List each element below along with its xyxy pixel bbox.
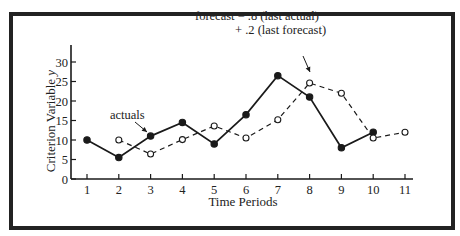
actuals-point bbox=[147, 133, 153, 139]
forecast-point bbox=[370, 135, 376, 141]
forecast-formula-line2: + .2 (last forecast) bbox=[235, 23, 326, 37]
forecast-point bbox=[243, 135, 249, 141]
actuals-point bbox=[179, 119, 185, 125]
actuals-point bbox=[338, 145, 344, 151]
y-axis-title-text: Criterion Variable bbox=[43, 76, 58, 173]
forecast-point bbox=[275, 117, 281, 123]
forecast-line bbox=[119, 83, 405, 154]
forecast-point bbox=[211, 123, 217, 129]
x-tick-label: 4 bbox=[179, 183, 186, 197]
y-axis-variable: y bbox=[43, 70, 58, 78]
forecast-formula-line1: forecast = .8 (last actual) bbox=[195, 9, 319, 23]
forecast-point bbox=[338, 90, 344, 96]
y-tick-label: 0 bbox=[62, 173, 68, 187]
x-axis-title: Time Periods bbox=[208, 194, 277, 209]
actuals-point bbox=[84, 137, 90, 143]
x-tick-label: 8 bbox=[306, 183, 312, 197]
x-tick-label: 1 bbox=[84, 183, 90, 197]
x-tick-label: 11 bbox=[399, 183, 411, 197]
y-tick-label: 5 bbox=[62, 153, 68, 167]
y-axis-title: Criterion Variable y bbox=[43, 70, 58, 173]
forecast-point bbox=[307, 80, 313, 86]
actuals-point bbox=[275, 72, 281, 78]
actuals-point bbox=[370, 129, 376, 135]
x-tick-label: 9 bbox=[338, 183, 344, 197]
actuals-point bbox=[243, 111, 249, 117]
x-tick-label: 2 bbox=[116, 183, 122, 197]
actuals-annotation: actuals bbox=[110, 108, 145, 122]
forecast-point bbox=[148, 151, 154, 157]
actuals-point bbox=[211, 141, 217, 147]
forecast-point bbox=[402, 129, 408, 135]
forecast-point bbox=[116, 137, 122, 143]
chart-canvas: 0510152025301234567891011 actuals foreca… bbox=[0, 0, 460, 236]
actuals-point bbox=[116, 154, 122, 160]
x-tick-label: 10 bbox=[367, 183, 380, 197]
y-tick-label: 30 bbox=[56, 56, 69, 70]
actuals-point bbox=[306, 94, 312, 100]
forecast-point bbox=[179, 137, 185, 143]
x-tick-label: 3 bbox=[147, 183, 153, 197]
